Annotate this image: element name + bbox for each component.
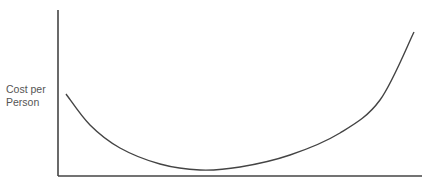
chart-canvas <box>0 0 434 189</box>
y-axis-label-line-2: Person <box>6 96 46 109</box>
y-axis-label: Cost per Person <box>6 83 46 109</box>
cost-curve <box>66 32 414 170</box>
y-axis-label-line-1: Cost per <box>6 83 46 96</box>
